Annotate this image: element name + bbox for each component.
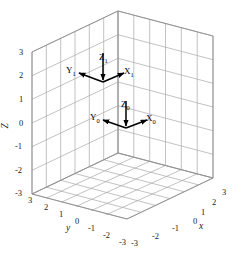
z-tick-0: 0 — [19, 119, 23, 128]
figure-root: 3 2 1 0 -1 -2 -3 Z 3 2 1 0 -1 -2 -3 y -3… — [0, 0, 241, 265]
y-tick-neg1: -1 — [88, 224, 95, 233]
x-tick-2: 2 — [212, 198, 216, 207]
frame-0-z-label: Z0 — [121, 100, 130, 111]
x-tick-neg3: -3 — [131, 239, 138, 248]
y-tick-2: 2 — [44, 203, 48, 212]
x-tick-3: 3 — [222, 188, 226, 197]
z-tick-neg3: -3 — [15, 189, 22, 198]
frame-1-x-label: X1 — [124, 67, 134, 78]
grid-back-wall — [118, 11, 213, 178]
grid-left-wall — [32, 11, 118, 194]
three-d-plot — [0, 0, 241, 265]
y-tick-neg3: -3 — [119, 238, 126, 247]
frame-1-x-axis — [103, 73, 124, 82]
plot-box-edges — [32, 11, 213, 219]
y-tick-0: 0 — [75, 217, 79, 226]
y-tick-neg2: -2 — [103, 231, 110, 240]
frame-0-x-axis — [126, 120, 147, 128]
x-tick-neg1: -1 — [172, 224, 179, 233]
x-tick-0: 0 — [193, 217, 197, 226]
frame-1-y-axis — [79, 73, 103, 82]
z-tick-1: 1 — [19, 95, 23, 104]
frame-0-y-axis — [103, 120, 126, 128]
z-axis-title: Z — [1, 120, 11, 132]
y-axis-title: y — [66, 224, 70, 234]
y-tick-3: 3 — [28, 196, 32, 205]
z-tick-neg2: -2 — [15, 166, 22, 175]
x-tick-1: 1 — [201, 208, 205, 217]
x-axis-title: x — [199, 222, 203, 232]
z-tick-3: 3 — [19, 48, 23, 57]
y-tick-1: 1 — [59, 210, 63, 219]
frame-1-y-label: Y1 — [66, 66, 76, 77]
z-tick-neg1: -1 — [15, 142, 22, 151]
frame-0-y-label: Y0 — [90, 113, 100, 124]
x-tick-neg2: -2 — [152, 232, 159, 241]
frame-0-x-label: X0 — [146, 114, 156, 125]
z-tick-2: 2 — [19, 71, 23, 80]
frame-1-z-label: Z1 — [99, 53, 108, 64]
